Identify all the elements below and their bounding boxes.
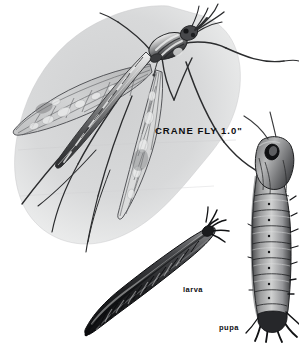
pupa xyxy=(244,112,299,342)
label-larva: larva xyxy=(183,285,203,294)
illustration-canvas xyxy=(0,0,299,343)
label-pupa: pupa xyxy=(219,323,239,332)
pupa-head xyxy=(244,112,294,194)
illustration-plate: CRANE FLY 1.0" larva pupa xyxy=(0,0,299,343)
label-crane-fly: CRANE FLY 1.0" xyxy=(155,125,243,136)
